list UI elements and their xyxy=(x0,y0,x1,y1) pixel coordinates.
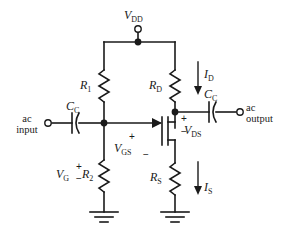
id-label-sub: D xyxy=(208,74,214,83)
rs-label: RS xyxy=(150,171,162,183)
id-label: ID xyxy=(204,68,214,80)
vdd-label: VDD xyxy=(124,9,143,21)
r2-label-sub: 2 xyxy=(89,174,93,183)
cc-in-label: CC xyxy=(66,100,79,112)
ac-output-label-line1: ac xyxy=(246,102,280,113)
cc-out-label: CC xyxy=(204,88,217,100)
cc-in-label-sub: C xyxy=(74,106,79,115)
rs-label-sub: S xyxy=(157,177,161,186)
mosfet-gate-arrowhead xyxy=(152,118,162,128)
ac-output-terminal-circle[interactable] xyxy=(237,109,243,115)
ac-input-label: ac input xyxy=(10,113,44,135)
ac-input-terminal-circle[interactable] xyxy=(45,120,51,126)
rd-label: RD xyxy=(149,79,162,91)
r1-resistor-zigzag xyxy=(99,70,109,102)
ac-output-label: ac output xyxy=(246,102,280,124)
gate-junction-dot xyxy=(101,120,108,127)
r2-label: R2 xyxy=(82,168,93,180)
r1-label: R1 xyxy=(80,79,91,91)
is-label: IS xyxy=(204,181,212,193)
ac-output-label-line2: output xyxy=(246,113,280,124)
vdd-label-sub: DD xyxy=(131,15,143,24)
vds-minus-sign: − xyxy=(181,127,187,137)
is-label-sub: S xyxy=(208,187,212,196)
vg-plus-sign: + xyxy=(76,162,82,172)
vdd-junction-dot xyxy=(135,39,142,46)
is-arrowhead xyxy=(194,186,202,195)
vds-plus-sign: + xyxy=(181,114,187,124)
vgs-label-sub: GS xyxy=(121,148,131,157)
r2-resistor-zigzag xyxy=(99,160,109,192)
ac-input-label-line1: ac xyxy=(10,113,44,124)
vg-label: VG xyxy=(56,168,69,180)
cc-out-label-sub: C xyxy=(212,94,217,103)
vg-minus-sign: − xyxy=(76,174,82,184)
id-arrowhead xyxy=(194,86,202,95)
circuit-diagram: VDD ac input ac output R1 R2 RD RS CC CC… xyxy=(0,0,281,242)
ac-input-label-line2: input xyxy=(10,124,44,135)
drain-junction-dot xyxy=(172,109,179,116)
vgs-label: VGS xyxy=(114,142,132,154)
vds-label-sub: DS xyxy=(191,130,201,139)
rd-label-sub: D xyxy=(156,85,162,94)
rd-resistor-zigzag xyxy=(170,70,180,102)
vg-label-sub: G xyxy=(63,174,69,183)
cc-in-label-main: C xyxy=(66,99,74,113)
rs-resistor-zigzag xyxy=(170,163,180,195)
r1-label-sub: 1 xyxy=(87,85,91,94)
cc-out-label-main: C xyxy=(204,87,212,101)
vgs-plus-sign: + xyxy=(129,132,135,142)
vgs-minus-sign: − xyxy=(143,150,149,160)
vdd-terminal-circle[interactable] xyxy=(135,26,141,32)
